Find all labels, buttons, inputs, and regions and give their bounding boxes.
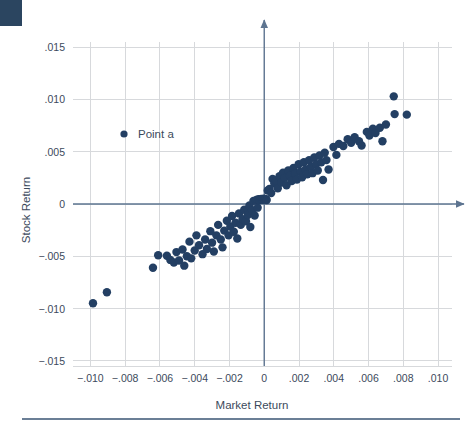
x-axis-title: Market Return	[216, 399, 289, 411]
x-tick-label: .004	[324, 372, 345, 384]
data-point	[250, 211, 258, 219]
scatter-plot: −.010−.008−.006−.004−.0020.002.004.006.0…	[0, 0, 472, 432]
data-point	[403, 110, 411, 118]
y-tick-label: .010	[45, 93, 66, 105]
y-tick-labels-group: .015.010.0050−.005−.010−.015	[38, 41, 65, 367]
bottom-divider-rule	[22, 418, 460, 420]
data-point	[214, 221, 222, 229]
data-point	[262, 196, 270, 204]
x-tick-label: −.004	[181, 372, 208, 384]
data-point	[322, 156, 330, 164]
data-point	[324, 165, 332, 173]
data-point	[218, 243, 226, 251]
data-point	[319, 176, 327, 184]
y-tick-label: −.015	[38, 355, 65, 367]
data-point	[314, 166, 322, 174]
data-point	[187, 254, 195, 262]
data-point	[210, 247, 218, 255]
data-point	[89, 299, 97, 307]
x-tick-label: .010	[428, 372, 449, 384]
x-tick-label: −.006	[147, 372, 174, 384]
data-point	[390, 110, 398, 118]
data-point	[357, 141, 365, 149]
data-point	[208, 238, 216, 246]
data-point	[103, 288, 111, 296]
y-tick-label: .005	[45, 146, 66, 158]
figure-container: −.010−.008−.006−.004−.0020.002.004.006.0…	[0, 0, 472, 432]
data-point	[149, 264, 157, 272]
x-tick-label: −.010	[77, 372, 104, 384]
y-tick-label: −.005	[38, 250, 65, 262]
y-tick-label: .015	[45, 41, 66, 53]
y-axis-title: Stock Return	[20, 177, 32, 243]
x-tick-label: .006	[358, 372, 379, 384]
data-point	[195, 241, 203, 249]
legend-marker-icon	[120, 130, 127, 137]
x-tick-labels-group: −.010−.008−.006−.004−.0020.002.004.006.0…	[77, 372, 448, 384]
data-point	[321, 149, 329, 157]
x-tick-label: .002	[289, 372, 310, 384]
legend-group: Point a	[120, 128, 174, 140]
data-point	[246, 223, 254, 231]
data-point	[390, 92, 398, 100]
x-tick-label: −.002	[216, 372, 243, 384]
data-point	[154, 251, 162, 259]
data-point	[233, 234, 241, 242]
data-point	[180, 261, 188, 269]
data-point	[332, 151, 340, 159]
x-tick-label: −.008	[112, 372, 139, 384]
data-point	[185, 237, 193, 245]
x-tick-label: .008	[393, 372, 414, 384]
y-tick-label: 0	[59, 198, 65, 210]
data-point	[382, 120, 390, 128]
data-point	[217, 235, 225, 243]
legend-label: Point a	[138, 128, 174, 140]
data-point	[253, 203, 261, 211]
x-tick-label: 0	[261, 372, 267, 384]
data-points-group	[89, 92, 411, 307]
data-point	[192, 231, 200, 239]
y-tick-label: −.010	[38, 303, 65, 315]
data-point	[378, 137, 386, 145]
